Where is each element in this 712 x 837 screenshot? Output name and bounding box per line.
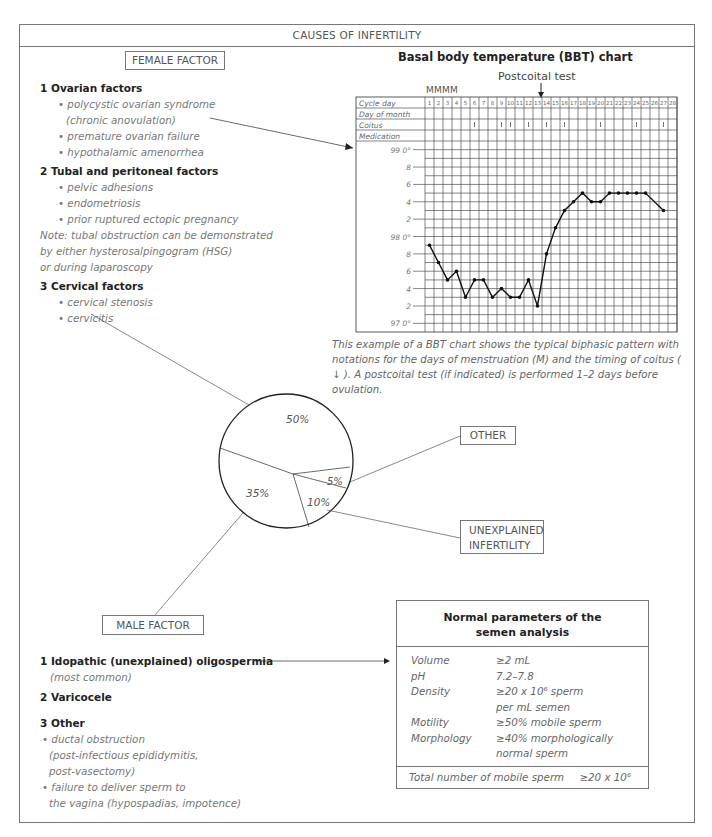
svg-text:9: 9: [500, 100, 504, 106]
semen-analysis-box: Normal parameters of the semen analysis …: [396, 600, 649, 789]
svg-text:23: 23: [624, 100, 631, 106]
svg-text:2: 2: [406, 215, 411, 224]
parameter-name: Density: [411, 684, 496, 700]
svg-text:8: 8: [406, 250, 411, 259]
semen-parameters: Volume≥2 mLpH7.2–7.8Density≥20 x 10⁶ spe…: [397, 647, 648, 766]
svg-text:Day of month: Day of month: [359, 110, 410, 119]
svg-text:14: 14: [543, 100, 550, 106]
total-value: ≥20 x 10⁶: [579, 771, 631, 783]
svg-text:12: 12: [525, 100, 532, 106]
parameter-value: ≥20 x 10⁶ sperm: [496, 684, 583, 700]
semen-parameter-row: Motility≥50% mobile sperm: [411, 715, 648, 731]
svg-text:26: 26: [651, 100, 658, 106]
svg-text:21: 21: [606, 100, 613, 106]
semen-total-row: Total number of mobile sperm ≥20 x 10⁶: [397, 766, 648, 788]
parameter-value: ≥50% mobile sperm: [496, 715, 601, 731]
male-factor-label: MALE FACTOR: [102, 615, 204, 635]
svg-text:19: 19: [588, 100, 595, 106]
svg-text:28: 28: [669, 100, 676, 106]
total-key: Total number of mobile sperm: [409, 771, 564, 783]
svg-text:Medication: Medication: [359, 132, 400, 141]
svg-text:20: 20: [597, 100, 604, 106]
bbt-caption: This example of a BBT chart shows the ty…: [332, 337, 692, 397]
semen-analysis-title: Normal parameters of the semen analysis: [397, 601, 648, 647]
svg-text:27: 27: [660, 100, 667, 106]
list-item: (most common): [40, 669, 273, 685]
list-item: (post-infectious epididymitis,: [40, 747, 273, 763]
semen-parameter-row: per mL semen: [411, 700, 648, 716]
parameter-name: [411, 746, 496, 762]
list-item: post-vasectomy): [40, 763, 273, 779]
pie-label-unexplained: 10%: [307, 496, 330, 508]
semen-parameter-row: Volume≥2 mL: [411, 653, 648, 669]
semen-parameter-row: Density≥20 x 10⁶ sperm: [411, 684, 648, 700]
svg-text:Coitus: Coitus: [359, 121, 383, 130]
semen-parameter-row: pH7.2–7.8: [411, 669, 648, 685]
arrowhead: [345, 143, 353, 150]
other-label: OTHER: [460, 426, 516, 445]
svg-text:17: 17: [570, 100, 577, 106]
svg-text:99 0°: 99 0°: [391, 146, 412, 155]
svg-text:7: 7: [482, 100, 486, 106]
male-factor-list: 1 Idopathic (unexplained) oligospermia (…: [40, 653, 273, 811]
parameter-name: pH: [411, 669, 496, 685]
svg-text:6: 6: [473, 100, 477, 106]
semen-parameter-row: normal sperm: [411, 746, 648, 762]
svg-text:97 0°: 97 0°: [391, 319, 412, 328]
title-line: semen analysis: [397, 625, 648, 640]
svg-text:2: 2: [437, 100, 441, 106]
label-line: INFERTILITY: [469, 538, 543, 553]
svg-text:6: 6: [406, 267, 411, 276]
semen-parameter-row: Morphology≥40% morphologically: [411, 731, 648, 747]
svg-text:24: 24: [633, 100, 640, 106]
svg-text:98 0°: 98 0°: [391, 233, 412, 242]
list-item: • ductal obstruction: [40, 731, 273, 747]
svg-text:3: 3: [446, 100, 450, 106]
list-item: the vagina (hypospadias, impotence): [40, 795, 273, 811]
pie-label-female: 50%: [286, 413, 309, 425]
svg-text:13: 13: [534, 100, 541, 106]
label-line: UNEXPLAINED: [469, 523, 543, 538]
parameter-name: [411, 700, 496, 716]
svg-text:25: 25: [642, 100, 649, 106]
bbt-temperature-line: [428, 191, 666, 307]
parameter-value: per mL semen: [496, 700, 570, 716]
parameter-name: Volume: [411, 653, 496, 669]
unexplained-infertility-label: UNEXPLAINED INFERTILITY: [460, 520, 544, 554]
svg-text:10: 10: [507, 100, 514, 106]
svg-text:4: 4: [406, 198, 411, 207]
svg-text:8: 8: [406, 163, 411, 172]
svg-text:8: 8: [491, 100, 495, 106]
svg-text:4: 4: [406, 285, 411, 294]
svg-text:18: 18: [579, 100, 586, 106]
arrowhead: [384, 658, 390, 664]
parameter-value: ≥40% morphologically: [496, 731, 613, 747]
parameter-value: ≥2 mL: [496, 653, 530, 669]
parameter-name: Morphology: [411, 731, 496, 747]
pie-label-other: 5%: [327, 476, 343, 487]
list-heading: 2 Varicocele: [40, 689, 273, 705]
pie-label-male: 35%: [246, 487, 269, 499]
svg-text:15: 15: [552, 100, 559, 106]
list-item: • failure to deliver sperm to: [40, 779, 273, 795]
parameter-name: Motility: [411, 715, 496, 731]
svg-text:6: 6: [406, 180, 411, 189]
svg-text:22: 22: [615, 100, 622, 106]
svg-text:Cycle day: Cycle day: [359, 99, 396, 108]
svg-text:4: 4: [455, 100, 459, 106]
svg-text:11: 11: [516, 100, 523, 106]
parameter-value: normal sperm: [496, 746, 568, 762]
title-line: Normal parameters of the: [397, 610, 648, 625]
list-heading: 1 Idopathic (unexplained) oligospermia: [40, 653, 273, 669]
list-heading: 3 Other: [40, 715, 273, 731]
svg-text:5: 5: [464, 100, 468, 106]
parameter-value: 7.2–7.8: [496, 669, 534, 685]
svg-text:1: 1: [428, 100, 432, 106]
svg-text:16: 16: [561, 100, 568, 106]
svg-text:2: 2: [406, 302, 411, 311]
